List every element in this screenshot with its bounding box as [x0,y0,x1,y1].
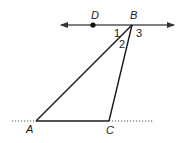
label-a: A [25,123,33,135]
label-c: C [106,124,114,136]
diagram-canvas: D B A C 1 2 3 [0,0,188,143]
point-d [90,22,95,27]
geometry-figure: D B A C 1 2 3 [0,0,188,143]
angle-label-2: 2 [119,38,125,50]
label-b: B [130,9,137,21]
label-d: D [91,9,99,21]
angle-label-3: 3 [136,27,142,39]
segment-ab [36,25,132,121]
